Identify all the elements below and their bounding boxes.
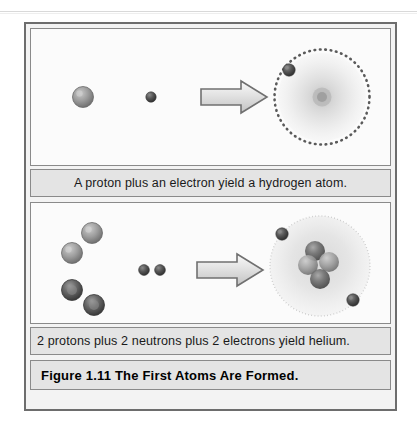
page-top-rule-secondary xyxy=(0,13,417,14)
reaction-arrow-icon xyxy=(201,81,267,113)
hydrogen-atom-group xyxy=(275,50,370,145)
proton-sphere xyxy=(62,243,83,264)
neutron-sphere xyxy=(84,295,105,316)
nucleon-neutron xyxy=(310,269,330,289)
hydrogen-diagram xyxy=(31,29,391,165)
panel-helium-illustration xyxy=(30,202,391,324)
electron-dot xyxy=(139,265,150,276)
panel-hydrogen-illustration xyxy=(30,28,391,166)
helium-diagram xyxy=(31,203,391,323)
caption-helium: 2 protons plus 2 neutrons plus 2 electro… xyxy=(30,327,391,355)
reaction-arrow-icon xyxy=(197,254,263,286)
page-top-rule xyxy=(0,11,417,12)
electron-dot xyxy=(155,265,166,276)
proton-sphere xyxy=(73,87,94,108)
helium-atom-group xyxy=(270,216,370,316)
figure-container: A proton plus an electron yield a hydrog… xyxy=(24,22,397,411)
nucleus-core xyxy=(317,92,327,102)
neutron-sphere xyxy=(62,280,83,301)
figure-title: Figure 1.11 The First Atoms Are Formed. xyxy=(30,360,391,390)
orbiting-electron xyxy=(283,64,295,76)
nucleon-proton xyxy=(319,252,339,272)
orbiting-electron xyxy=(347,294,359,306)
electron-dot xyxy=(146,92,156,102)
caption-hydrogen: A proton plus an electron yield a hydrog… xyxy=(30,169,391,197)
orbiting-electron xyxy=(276,228,288,240)
proton-sphere xyxy=(82,223,103,244)
